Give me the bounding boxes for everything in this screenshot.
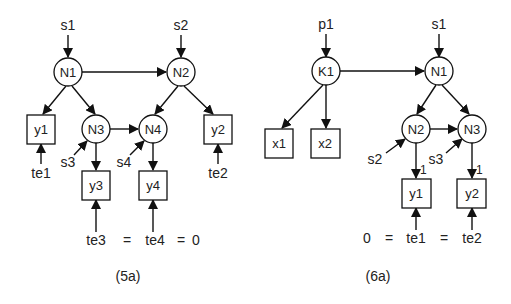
node-x2: x2 (311, 129, 340, 158)
svg-text:N2: N2 (408, 122, 425, 137)
node-n3: N3 (82, 115, 110, 143)
node-n2: N2 (167, 58, 195, 86)
label-s3-6a: s3 (429, 151, 444, 167)
node-y2: y2 (204, 115, 232, 144)
label-s2-6a: s2 (368, 151, 383, 167)
node-n2-6a: N2 (402, 115, 430, 143)
diagram-canvas: s1 s2 s3 s4 te1 te2 N1 N2 (0, 0, 511, 304)
svg-text:=: = (123, 232, 131, 248)
edge-n1-y1 (43, 86, 66, 114)
node-x1: x1 (265, 129, 293, 158)
edge-n2-y2 (184, 86, 213, 114)
edge-n1-n3 (72, 86, 95, 114)
svg-text:te3: te3 (86, 232, 106, 248)
edge-k1-x1 (282, 85, 323, 128)
svg-text:N1: N1 (60, 65, 77, 80)
svg-text:te1: te1 (406, 230, 426, 246)
label-te2: te2 (208, 165, 228, 181)
arrow-s4-n4 (130, 141, 144, 155)
node-y4: y4 (139, 171, 167, 200)
loading-n3-y2: 1 (476, 163, 483, 177)
node-y2-6a: y2 (457, 179, 486, 208)
svg-text:y1: y1 (34, 122, 48, 137)
label-s1-6a: s1 (432, 16, 447, 32)
arrow-s3-n3 (74, 141, 87, 155)
caption-6a: (6a) (366, 268, 391, 284)
svg-text:N3: N3 (88, 122, 105, 137)
node-k1: K1 (312, 57, 340, 85)
node-n1: N1 (54, 58, 82, 86)
edge-n2-n4 (155, 86, 178, 114)
constraint-5a: te3 = te4 = 0 (86, 232, 200, 248)
svg-text:N4: N4 (145, 122, 162, 137)
svg-text:te2: te2 (462, 230, 482, 246)
arrow-s2-n2-6a (386, 139, 405, 153)
caption-5a: (5a) (116, 268, 141, 284)
svg-text:N1: N1 (431, 64, 448, 79)
svg-text:te4: te4 (145, 232, 165, 248)
label-te1: te1 (31, 165, 51, 181)
svg-text:0: 0 (192, 232, 200, 248)
edge-n1-n3-6a (442, 85, 469, 114)
svg-text:y4: y4 (146, 178, 160, 193)
edge-n1-n2-6a (417, 85, 436, 114)
svg-text:N3: N3 (464, 122, 481, 137)
constraint-6a: 0 = te1 = te2 (363, 230, 482, 246)
node-y1: y1 (27, 115, 55, 144)
svg-text:y2: y2 (211, 122, 225, 137)
node-y3: y3 (82, 171, 110, 200)
node-n4: N4 (139, 115, 167, 143)
svg-text:0: 0 (363, 230, 371, 246)
svg-text:x1: x1 (272, 136, 286, 151)
diagram-5a: s1 s2 s3 s4 te1 te2 N1 N2 (27, 17, 232, 284)
node-n1-6a: N1 (425, 57, 453, 85)
arrow-s3-n3-6a (446, 139, 462, 153)
label-s4: s4 (117, 154, 132, 170)
svg-text:x2: x2 (318, 136, 332, 151)
svg-text:y3: y3 (89, 178, 103, 193)
svg-text:=: = (385, 230, 393, 246)
label-s3: s3 (61, 154, 76, 170)
label-p1: p1 (318, 16, 334, 32)
svg-text:y2: y2 (465, 186, 479, 201)
svg-text:K1: K1 (318, 64, 334, 79)
node-y1-6a: y1 (402, 179, 431, 208)
svg-text:N2: N2 (173, 65, 190, 80)
node-n3-6a: N3 (458, 115, 486, 143)
svg-text:y1: y1 (409, 186, 423, 201)
diagram-6a: p1 s1 1 1 s2 s3 K1 N1 (265, 16, 486, 284)
svg-text:=: = (177, 232, 185, 248)
svg-text:=: = (440, 230, 448, 246)
label-s2: s2 (174, 17, 189, 33)
label-s1: s1 (61, 17, 76, 33)
loading-n2-y1: 1 (420, 163, 427, 177)
